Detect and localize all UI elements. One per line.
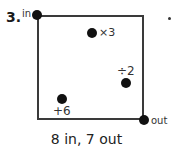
- problem-number: 3.: [6, 9, 21, 25]
- operation-dot-divide: [121, 78, 131, 88]
- exit-dot: [139, 115, 149, 125]
- exit-label: out: [151, 115, 167, 126]
- operation-dot-multiply: [87, 28, 97, 38]
- entry-dot: [32, 10, 42, 20]
- operation-dot-add: [57, 94, 67, 104]
- operation-label-multiply: ×3: [99, 26, 115, 39]
- operation-label-divide: ÷2: [117, 64, 135, 78]
- operation-label-add: +6: [53, 104, 71, 118]
- caption: 8 in, 7 out: [0, 131, 173, 147]
- entry-label: in: [22, 8, 31, 19]
- next-problem-fragment: [168, 17, 171, 20]
